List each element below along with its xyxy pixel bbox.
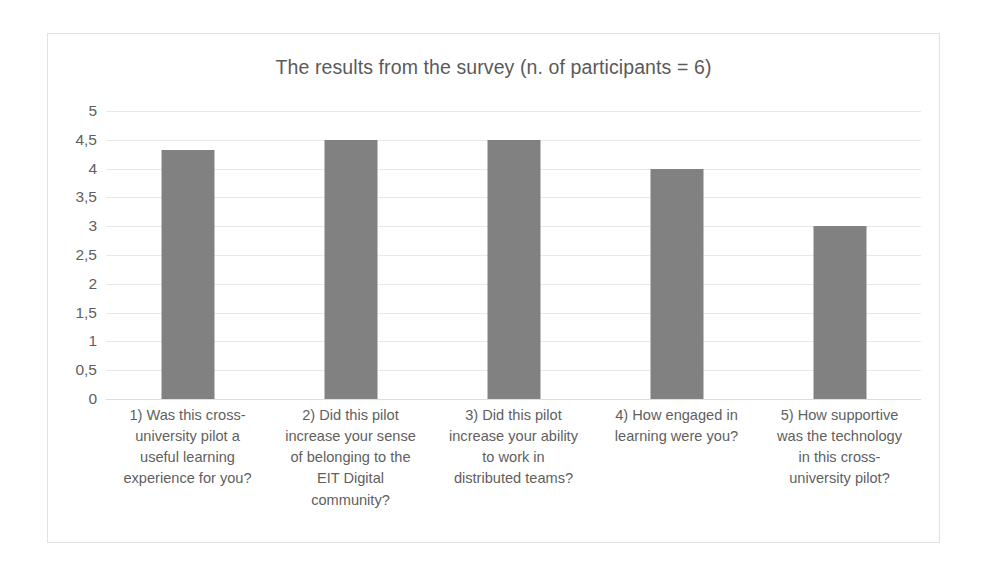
- x-axis-category-label-line: experience for you?: [110, 468, 265, 489]
- x-axis-category-label: 4) How engaged inlearning were you?: [595, 405, 758, 447]
- x-axis-category-label-line: community?: [273, 490, 428, 511]
- bar-slot: [432, 111, 595, 399]
- y-axis-tick-label: 5: [88, 103, 97, 119]
- y-axis-tick-label: 0: [88, 391, 97, 407]
- x-axis-category-label-line: 3) Did this pilot: [436, 405, 591, 426]
- x-axis-labels: 1) Was this cross-university pilot ausef…: [106, 405, 921, 535]
- x-axis-category-label: 2) Did this pilotincrease your senseof b…: [269, 405, 432, 511]
- x-axis-category-label-line: EIT Digital: [273, 468, 428, 489]
- bar[interactable]: [161, 150, 214, 399]
- x-axis-category-label-line: in this cross-: [762, 447, 917, 468]
- x-axis-category-label: 1) Was this cross-university pilot ausef…: [106, 405, 269, 490]
- bar-slot: [595, 111, 758, 399]
- y-axis-tick-label: 3,5: [75, 190, 97, 206]
- x-axis-category-label-line: increase your ability: [436, 426, 591, 447]
- x-axis-category-label-line: distributed teams?: [436, 468, 591, 489]
- gridline: [106, 399, 921, 400]
- bar-slot: [269, 111, 432, 399]
- x-axis-category-label: 3) Did this pilotincrease your abilityto…: [432, 405, 595, 490]
- x-axis-category-label-line: 4) How engaged in: [599, 405, 754, 426]
- plot-area: 54,543,532,521,510,50: [106, 111, 921, 399]
- y-axis-tick-label: 2,5: [75, 247, 97, 263]
- y-axis-tick-label: 2: [88, 276, 97, 292]
- x-axis-category-label-line: was the technology: [762, 426, 917, 447]
- x-axis-category-label-line: university pilot?: [762, 468, 917, 489]
- y-axis-tick-label: 3: [88, 218, 97, 234]
- x-axis-category-label-line: learning were you?: [599, 426, 754, 447]
- x-axis-category-label-line: to work in: [436, 447, 591, 468]
- x-axis-category-label-line: 5) How supportive: [762, 405, 917, 426]
- bar[interactable]: [324, 140, 377, 399]
- x-axis-category-label-line: of belonging to the: [273, 447, 428, 468]
- x-axis-category-label-line: 1) Was this cross-: [110, 405, 265, 426]
- chart-title: The results from the survey (n. of parti…: [48, 56, 939, 79]
- x-axis-category-label: 5) How supportivewas the technologyin th…: [758, 405, 921, 490]
- chart-container: The results from the survey (n. of parti…: [47, 33, 940, 543]
- bar[interactable]: [650, 169, 703, 399]
- y-axis-tick-label: 4,5: [75, 132, 97, 148]
- y-axis-tick-label: 4: [88, 161, 97, 177]
- y-axis-tick-label: 1: [88, 334, 97, 350]
- bar-series: [106, 111, 921, 399]
- bar[interactable]: [487, 140, 540, 399]
- x-axis-category-label-line: increase your sense: [273, 426, 428, 447]
- x-axis-category-label-line: 2) Did this pilot: [273, 405, 428, 426]
- x-axis-category-label-line: useful learning: [110, 447, 265, 468]
- bar-slot: [758, 111, 921, 399]
- y-axis-tick-label: 1,5: [75, 305, 97, 321]
- bar[interactable]: [813, 226, 866, 399]
- x-axis-category-label-line: university pilot a: [110, 426, 265, 447]
- y-axis-tick-label: 0,5: [75, 362, 97, 378]
- bar-slot: [106, 111, 269, 399]
